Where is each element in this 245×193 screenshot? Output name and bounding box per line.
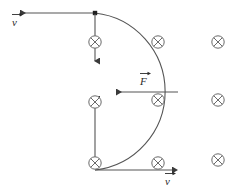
physics-diagram-figure: v F v	[0, 0, 245, 193]
force-label-text: F	[140, 75, 147, 87]
diagram-canvas	[0, 0, 245, 193]
field-marker-1	[89, 36, 101, 48]
top-velocity-label: v	[12, 17, 17, 28]
field-marker-5	[152, 94, 164, 106]
force-label: F	[140, 76, 147, 87]
field-marker-9	[212, 154, 224, 166]
field-marker-2	[152, 36, 164, 48]
vector-arrow-overbar-top	[12, 12, 17, 17]
field-marker-7	[89, 157, 101, 169]
field-marker-3	[212, 36, 224, 48]
field-marker-4	[89, 96, 101, 108]
bottom-velocity-label: v	[165, 176, 170, 187]
vector-arrow-overbar-force	[140, 71, 147, 76]
bottom-velocity-label-text: v	[165, 175, 170, 187]
vector-arrow-overbar-bottom	[165, 171, 170, 176]
field-marker-8	[152, 157, 164, 169]
field-marker-6	[212, 94, 224, 106]
top-velocity-label-text: v	[12, 16, 17, 28]
